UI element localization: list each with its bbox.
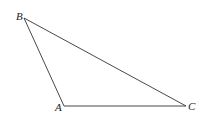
- edge-ab: [24, 18, 64, 106]
- triangle-diagram: B A C: [0, 0, 204, 113]
- vertex-label-b: B: [16, 10, 23, 22]
- vertex-label-a: A: [54, 101, 62, 113]
- edge-bc: [24, 18, 186, 106]
- vertex-label-c: C: [188, 100, 196, 112]
